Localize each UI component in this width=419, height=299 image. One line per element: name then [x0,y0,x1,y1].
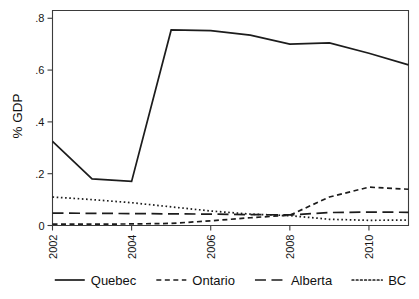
x-tick-label: 2002 [47,235,59,259]
chart-legend: QuebecOntarioAlbertaBC [55,273,406,288]
legend-label-bc: BC [388,273,406,288]
legend-label-quebec: Quebec [91,273,137,288]
y-tick-label: .2 [35,168,44,180]
x-tick-label: 2010 [363,235,375,259]
x-tick-label: 2004 [126,235,138,259]
legend-label-alberta: Alberta [291,273,333,288]
y-axis-ticks: 0.2.4.6.8 [35,12,52,231]
series-lines [53,30,409,224]
series-line-ontario [53,187,409,224]
y-tick-label: .4 [35,116,44,128]
series-line-quebec [53,30,409,182]
x-tick-label: 2008 [284,235,296,259]
series-line-bc [53,197,409,220]
y-axis-title-group: % GDP [10,93,25,138]
series-line-alberta [53,212,409,215]
y-axis-title: % GDP [10,93,25,138]
y-tick-label: 0 [38,220,44,232]
legend-label-ontario: Ontario [192,273,235,288]
chart-figure: % GDP 0.2.4.6.8 20022004200620082010 Que… [0,0,419,299]
y-tick-label: .6 [35,64,44,76]
y-tick-label: .8 [35,12,44,24]
plot-frame [53,11,409,226]
x-axis-ticks: 20022004200620082010 [47,226,375,259]
x-tick-label: 2006 [205,235,217,259]
line-chart: % GDP 0.2.4.6.8 20022004200620082010 Que… [0,0,419,299]
